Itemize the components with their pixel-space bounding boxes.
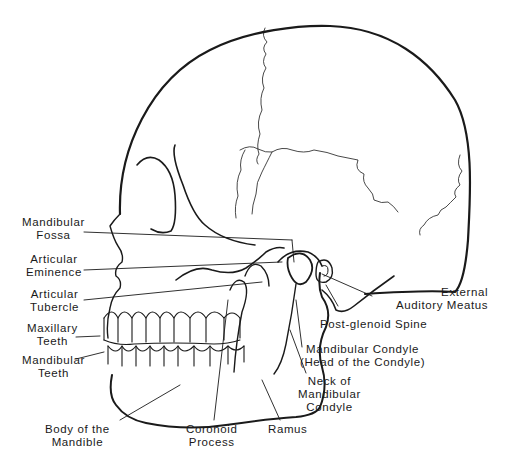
label-articular-tubercle: Articular Tubercle — [30, 288, 79, 314]
label-line: (Head of the Condyle) — [300, 356, 425, 369]
label-body-of-mandible: Body of the Mandible — [45, 423, 110, 449]
maxillary-teeth — [104, 312, 240, 345]
label-coronoid-process: Coronoid Process — [186, 423, 237, 449]
squamosal-suture — [240, 147, 398, 212]
label-line: Fossa — [22, 229, 85, 242]
label-line: Body of the — [45, 423, 110, 436]
label-articular-eminence: Articular Eminence — [26, 253, 82, 279]
label-line: Mandibular Condyle — [300, 343, 425, 356]
mandibular-condyle — [288, 253, 313, 284]
label-line: Teeth — [27, 335, 78, 348]
label-line: Mandibular — [298, 388, 361, 401]
frontal-suture — [252, 152, 272, 214]
label-line: Ramus — [268, 423, 307, 436]
label-line: Condyle — [298, 401, 361, 414]
label-line: Maxillary — [27, 322, 78, 335]
label-ramus: Ramus — [268, 423, 307, 436]
label-line: Mandibular — [22, 354, 85, 367]
label-line: Eminence — [26, 266, 82, 279]
label-line: External — [396, 286, 488, 299]
label-line: Articular — [26, 253, 82, 266]
label-mandibular-teeth: Mandibular Teeth — [22, 354, 85, 380]
sphenoid-suture — [235, 150, 245, 218]
mandible-outline — [111, 273, 329, 428]
label-line: Post-glenoid Spine — [320, 318, 427, 331]
label-external-auditory-meatus: External Auditory Meatus — [396, 286, 488, 312]
coronal-suture — [257, 28, 267, 164]
lambdoid-suture — [420, 155, 463, 235]
label-line: Neck of — [298, 375, 361, 388]
label-line: Tubercle — [30, 301, 79, 314]
label-line: Mandible — [45, 436, 110, 449]
label-post-glenoid-spine: Post-glenoid Spine — [320, 318, 427, 331]
ramus-back — [274, 284, 296, 374]
label-neck-of-mandibular-condyle: Neck of Mandibular Condyle — [298, 375, 361, 414]
label-line: Process — [186, 436, 237, 449]
label-line: Articular — [30, 288, 79, 301]
mandibular-teeth — [108, 346, 244, 366]
label-line: Teeth — [22, 367, 85, 380]
label-mandibular-fossa: Mandibular Fossa — [22, 216, 85, 242]
label-line: Mandibular — [22, 216, 85, 229]
label-mandibular-condyle: Mandibular Condyle (Head of the Condyle) — [300, 343, 425, 369]
label-line: Auditory Meatus — [396, 299, 488, 312]
label-maxillary-teeth: Maxillary Teeth — [27, 322, 78, 348]
label-line: Coronoid — [186, 423, 237, 436]
orbit-rim — [137, 157, 176, 232]
temporal-line — [174, 145, 255, 245]
